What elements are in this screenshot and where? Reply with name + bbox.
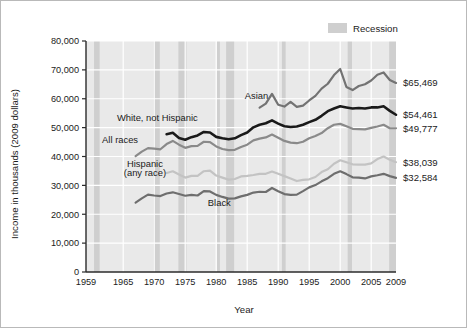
chart-figure: 010,00020,00030,00040,00050,00060,00070,… <box>0 0 467 328</box>
x-axis-tick-labels: 1959196519701975198019851990199520002005… <box>76 277 406 287</box>
y-tick-label-30000: 30,000 <box>51 181 79 191</box>
end-value-label-hispanic-any-race: $38,039 <box>403 157 438 168</box>
series-label-black: Black <box>208 197 231 208</box>
x-tick-label-1965: 1965 <box>113 277 133 287</box>
end-value-label-white-not-hispanic: $54,461 <box>403 109 438 120</box>
y-tick-label-70000: 70,000 <box>51 65 79 75</box>
y-tick-label-40000: 40,000 <box>51 152 79 162</box>
x-tick-label-2009: 2009 <box>386 277 406 287</box>
y-tick-label-50000: 50,000 <box>51 123 79 133</box>
end-value-label-all-races: $49,777 <box>403 123 438 134</box>
y-axis-tick-labels: 010,00020,00030,00040,00050,00060,00070,… <box>51 36 79 277</box>
y-axis-title: Income in thousands (2009 dollars) <box>9 89 20 239</box>
series-label-white-not-hispanic: White, not Hispanic <box>117 112 198 123</box>
chart-legend: Recession <box>328 23 398 34</box>
series-label-hispanic-any-race-line2: (any race) <box>124 167 166 178</box>
y-tick-label-60000: 60,000 <box>51 94 79 104</box>
recession-swatch <box>328 23 347 33</box>
x-tick-label-1980: 1980 <box>206 277 226 287</box>
x-tick-label-2000: 2000 <box>330 277 350 287</box>
x-axis-title: Year <box>234 304 254 315</box>
x-tick-label-1985: 1985 <box>237 277 257 287</box>
y-tick-label-20000: 20,000 <box>51 210 79 220</box>
x-tick-label-2005: 2005 <box>361 277 381 287</box>
x-tick-label-1959: 1959 <box>76 277 96 287</box>
x-tick-label-1970: 1970 <box>144 277 164 287</box>
series-end-value-labels: $65,469$54,461$49,777$38,039$32,584 <box>403 77 438 183</box>
legend-label-recession: Recession <box>353 23 398 34</box>
series-label-asian: Asian <box>245 90 268 101</box>
end-value-label-asian: $65,469 <box>403 77 438 88</box>
y-tick-label-10000: 10,000 <box>51 238 79 248</box>
series-label-all-races: All races <box>102 134 138 145</box>
income-by-race-line-chart: 010,00020,00030,00040,00050,00060,00070,… <box>1 1 467 328</box>
x-tick-label-1995: 1995 <box>299 277 319 287</box>
x-tick-label-1975: 1975 <box>175 277 195 287</box>
y-tick-label-0: 0 <box>74 267 79 277</box>
end-value-label-black: $32,584 <box>403 172 438 183</box>
y-tick-label-80000: 80,000 <box>51 36 79 46</box>
x-tick-label-1990: 1990 <box>268 277 288 287</box>
